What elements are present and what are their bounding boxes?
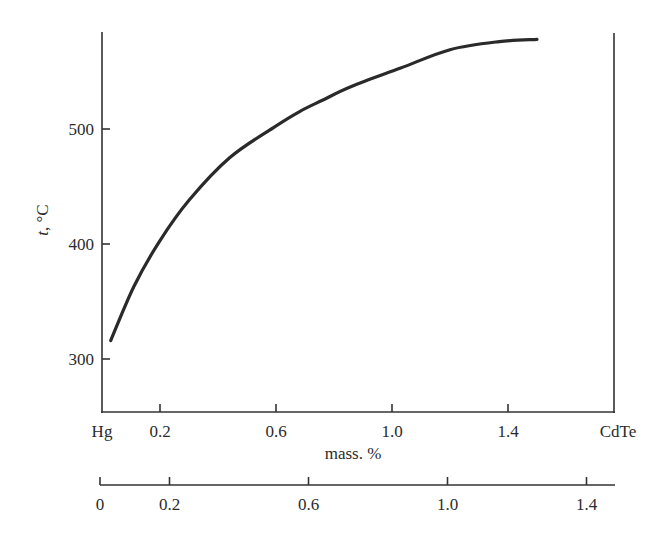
secondary-x-ticks: 00.20.61.01.4 [96, 477, 598, 514]
x-label-hg: Hg [92, 422, 113, 441]
secondary-x-axis: 00.20.61.01.4 [96, 477, 615, 514]
x-tick-label: 0.6 [265, 422, 286, 441]
x-tick-label: 1.0 [381, 422, 402, 441]
secondary-x-tick-label: 1.4 [576, 495, 598, 514]
x-label-cdte: CdTe [600, 422, 637, 441]
secondary-x-tick-label: 0.2 [159, 495, 180, 514]
secondary-x-tick-label: 0.6 [298, 495, 319, 514]
x-tick-label: 1.4 [497, 422, 519, 441]
y-axis-title: t, °C [33, 204, 52, 235]
x-ticks: 0.20.61.01.4 [149, 404, 519, 441]
y-tick-label: 500 [69, 120, 95, 139]
secondary-x-tick-label: 1.0 [437, 495, 458, 514]
y-tick-label: 300 [69, 350, 95, 369]
x-axis-title: mass. % [325, 444, 382, 463]
x-tick-label: 0.2 [149, 422, 170, 441]
y-ticks: 300400500 [69, 120, 111, 369]
chart: 300400500 0.20.61.01.4 Hg CdTe mass. % t… [0, 0, 667, 541]
y-tick-label: 400 [69, 235, 95, 254]
secondary-x-tick-label: 0 [96, 495, 105, 514]
liquidus-curve [111, 39, 537, 340]
plot-frame [101, 32, 615, 413]
